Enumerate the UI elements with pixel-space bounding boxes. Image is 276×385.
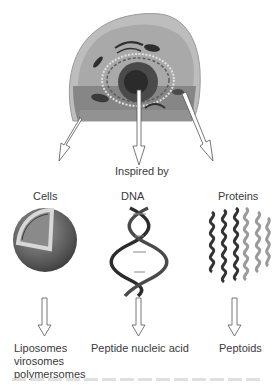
- inspired-by-label: Inspired by: [115, 165, 169, 178]
- source-label-proteins: Proteins: [218, 190, 258, 203]
- liposome-sphere-icon: [13, 208, 77, 272]
- arrow-to-liposomes-icon: [38, 298, 51, 336]
- result-line: Liposomes: [14, 342, 86, 355]
- result-peptoids: Peptoids: [219, 342, 262, 355]
- cell-illustration-icon: [69, 14, 200, 121]
- result-liposomes: Liposomes virosomes polymersomes: [14, 342, 86, 381]
- protein-bundle-icon: [210, 208, 269, 282]
- arrow-to-peptoids-icon: [228, 298, 241, 336]
- arrow-to-cells-icon: [59, 117, 82, 161]
- result-line: virosomes: [14, 355, 86, 368]
- source-label-cells: Cells: [33, 190, 57, 203]
- cut-off-caption: [12, 378, 262, 381]
- result-peptide-nucleic-acid: Peptide nucleic acid: [91, 342, 189, 355]
- arrow-to-pna-icon: [132, 298, 145, 336]
- source-label-dna: DNA: [121, 190, 144, 203]
